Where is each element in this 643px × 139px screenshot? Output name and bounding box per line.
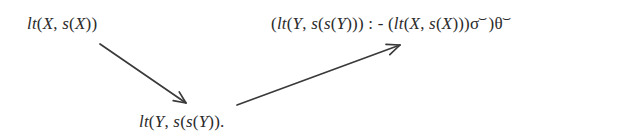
arrow-ascending-head-icon bbox=[386, 44, 400, 54]
head-variable-y-inner: Y bbox=[337, 14, 347, 33]
head-paren-close: ))) bbox=[346, 14, 364, 33]
arrow-ascending bbox=[237, 44, 400, 105]
arrow-descending-head-icon bbox=[173, 92, 186, 103]
expression-top-right: (lt(Y, s(s(Y))) : - (lt(X, s(X)))σ⌣)θ⌣ bbox=[271, 15, 512, 32]
body-variable-x-inner: X bbox=[442, 14, 453, 33]
substitution-theta: θ⌣ bbox=[494, 15, 512, 32]
body-comma: , bbox=[420, 14, 429, 33]
derivation-figure: lt(X, s(X)) (lt(Y, s(s(Y))) : - (lt(X, s… bbox=[0, 0, 643, 139]
expression-top-left: lt(X, s(X)) bbox=[27, 15, 97, 32]
bottom-paren-close-period: )). bbox=[208, 112, 224, 131]
head-predicate-lt: lt bbox=[277, 14, 287, 33]
bottom-predicate-lt: lt bbox=[139, 112, 149, 131]
neck-symbol: : - bbox=[364, 14, 388, 33]
bottom-variable-y: Y bbox=[155, 112, 165, 131]
body-paren-close: ))) bbox=[452, 14, 470, 33]
body-successor-s: s bbox=[429, 14, 436, 33]
body-variable-x: X bbox=[410, 14, 421, 33]
head-successor-s2: s bbox=[324, 14, 331, 33]
paren-close: )) bbox=[86, 14, 98, 33]
head-successor-s1: s bbox=[311, 14, 318, 33]
bottom-variable-y-inner: Y bbox=[199, 112, 209, 131]
variable-x-inner: X bbox=[75, 14, 86, 33]
bottom-successor-s2: s bbox=[186, 112, 193, 131]
head-comma: , bbox=[302, 14, 311, 33]
predicate-lt: lt bbox=[27, 14, 37, 33]
arrow-descending-shaft bbox=[100, 44, 186, 103]
head-variable-y: Y bbox=[293, 14, 303, 33]
variable-x: X bbox=[43, 14, 54, 33]
arrow-ascending-shaft bbox=[237, 45, 400, 105]
bottom-comma: , bbox=[164, 112, 173, 131]
body-predicate-lt: lt bbox=[394, 14, 404, 33]
comma: , bbox=[53, 14, 62, 33]
expression-bottom: lt(Y, s(s(Y)). bbox=[139, 113, 225, 130]
substitution-sigma: σ⌣ bbox=[470, 15, 489, 32]
arrow-descending bbox=[100, 44, 186, 103]
